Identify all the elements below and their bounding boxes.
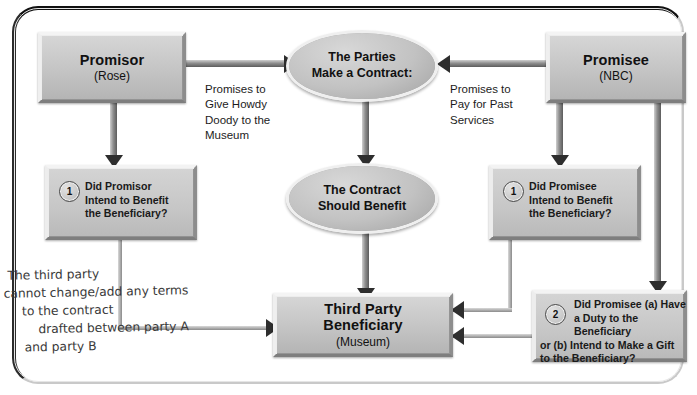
node-promisor-title: Promisor <box>80 52 144 68</box>
connector-promisor-to-question1 <box>110 103 117 160</box>
edge-label-promisee-promise: Promises to Pay for Past Services <box>450 82 513 128</box>
node-promisee-title: Promisee <box>583 52 649 68</box>
question-text-promisee-2: Did Promisee (a) Have a Duty to the Bene… <box>540 298 688 366</box>
question-box-promisee-intent[interactable]: 1 Did Promisee Intend to Benefit the Ben… <box>489 165 641 240</box>
node-beneficiary-line1: Third Party <box>324 301 402 317</box>
node-beneficiary-subtitle: (Museum) <box>336 335 390 349</box>
connector-contract-to-beneficiary <box>362 232 369 294</box>
connector-question1-right-down <box>508 240 512 312</box>
node-contract-should-benefit[interactable]: The Contract Should Benefit <box>286 163 438 234</box>
question-box-promisee-duty-or-gift[interactable]: 2 Did Promisee (a) Have a Duty to the Be… <box>532 290 687 362</box>
node-promisor[interactable]: Promisor (Rose) <box>38 32 186 103</box>
edge-label-left-line3: Doody to the <box>205 113 270 128</box>
edge-label-left-line2: Give Howdy <box>205 97 270 112</box>
connector-promisee-to-question1-right <box>556 103 563 160</box>
edge-label-left-line4: Museum <box>205 128 270 143</box>
edge-label-left-line1: Promises to <box>205 82 270 97</box>
connector-promisor-to-parties <box>186 60 286 67</box>
question-promisee1-line1: Did Promisee <box>529 180 613 194</box>
node-promisee-subtitle: (NBC) <box>599 69 632 83</box>
handwritten-annotation: The third party cannot change/add any te… <box>7 264 189 357</box>
question-promisee2-line2: a Duty to the Beneficiary <box>574 312 688 339</box>
question-promisee1-line2: Intend to Benefit <box>529 194 613 208</box>
question-promisor-line1: Did Promisor <box>85 180 169 194</box>
question-promisee2-line3: or (b) Intend to Make a Gift <box>540 339 688 353</box>
edge-label-right-line1: Promises to <box>450 82 513 97</box>
handwritten-line2: cannot change/add any terms <box>4 282 189 303</box>
question-number-badge-promisor: 1 <box>59 181 80 202</box>
node-promisee[interactable]: Promisee (NBC) <box>546 32 686 103</box>
connector-parties-to-contract <box>362 100 369 162</box>
diagram-canvas: Promisor (Rose) Promisee (NBC) The Parti… <box>0 0 697 395</box>
edge-label-promisor-promise: Promises to Give Howdy Doody to the Muse… <box>205 82 270 143</box>
question-text-promisor: Did Promisor Intend to Benefit the Benef… <box>85 180 169 221</box>
node-beneficiary-line2: Beneficiary <box>323 317 402 333</box>
arrowhead-promisee-to-parties <box>437 55 450 73</box>
question-promisee1-line3: the Beneficiary? <box>529 207 613 221</box>
node-third-party-beneficiary[interactable]: Third Party Beneficiary (Museum) <box>273 293 453 357</box>
question-text-promisee-1: Did Promisee Intend to Benefit the Benef… <box>529 180 613 221</box>
handwritten-line4: drafted between party A <box>38 318 189 339</box>
question-promisee2-line1: Did Promisee (a) Have <box>574 298 688 312</box>
connector-promisee-to-parties <box>448 60 546 67</box>
node-promisor-subtitle: (Rose) <box>94 69 130 83</box>
node-contract-line2: Should Benefit <box>318 199 406 215</box>
question-promisor-line3: the Beneficiary? <box>85 207 169 221</box>
node-parties-line1: The Parties <box>328 50 395 66</box>
node-parties-make-contract[interactable]: The Parties Make a Contract: <box>286 30 438 102</box>
connector-question2-to-beneficiary <box>452 334 532 338</box>
question-number-badge-promisee-1: 1 <box>503 181 524 202</box>
node-parties-line2: Make a Contract: <box>312 66 413 82</box>
question-box-promisor-intent[interactable]: 1 Did Promisor Intend to Benefit the Ben… <box>45 165 197 240</box>
handwritten-line5: and party B <box>25 336 190 357</box>
node-contract-line1: The Contract <box>323 183 400 199</box>
edge-label-right-line3: Services <box>450 113 513 128</box>
connector-promisee-to-question2 <box>654 103 661 287</box>
question-promisor-line2: Intend to Benefit <box>85 194 169 208</box>
question-promisee2-line4: to the Beneficiary? <box>540 352 688 366</box>
edge-label-right-line2: Pay for Past <box>450 97 513 112</box>
